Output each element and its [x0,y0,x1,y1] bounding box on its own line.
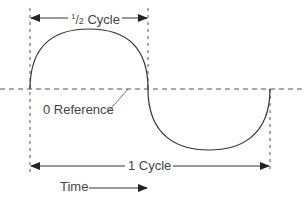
zero-reference-label: 0 Reference [41,103,116,117]
fraction-denominator: 2 [79,16,84,26]
time-label: Time [58,180,90,194]
half-cycle-label: 1/2 Cycle [69,10,122,28]
half-cycle-text: Cycle [87,12,120,27]
full-cycle-label: 1 Cycle [126,159,173,173]
